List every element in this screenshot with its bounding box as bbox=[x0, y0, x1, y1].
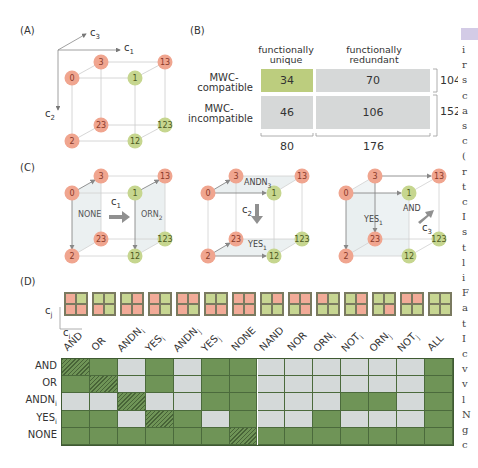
side-text-char: s bbox=[462, 74, 467, 85]
truth-icon-nor bbox=[288, 292, 312, 316]
side-text-char: l bbox=[462, 257, 465, 268]
matrix-cell bbox=[341, 359, 369, 376]
cube1-arrow-label: c1 bbox=[111, 196, 121, 210]
svg-text:12: 12 bbox=[404, 252, 414, 261]
svg-text:12: 12 bbox=[130, 137, 140, 146]
matrix-cell bbox=[341, 411, 369, 428]
side-text-char: l bbox=[462, 394, 465, 405]
truth-icon-all bbox=[428, 292, 452, 316]
matrix-cell bbox=[202, 428, 230, 445]
truth-icon-orn-i bbox=[316, 292, 340, 316]
matrix-cell bbox=[118, 376, 146, 393]
matrix-cell bbox=[230, 359, 258, 376]
matrix-cell bbox=[258, 393, 286, 410]
matrix-cell bbox=[425, 376, 453, 393]
svg-text:13: 13 bbox=[160, 172, 170, 181]
matrix-cell bbox=[285, 359, 313, 376]
svg-text:23: 23 bbox=[370, 235, 380, 244]
matrix-cell bbox=[230, 376, 258, 393]
table-brackets bbox=[255, 65, 455, 145]
axis-cj-label: cj bbox=[45, 305, 52, 319]
truth-icon-yes-j bbox=[204, 292, 228, 316]
side-text-char: ( bbox=[462, 150, 466, 161]
matrix-cell bbox=[90, 411, 118, 428]
svg-text:1: 1 bbox=[406, 189, 411, 198]
cube-transitions-c: 3 13 0 1 23 123 2 12 3 13 0 bbox=[0, 160, 460, 275]
matrix-cell bbox=[118, 428, 146, 445]
truth-icon-none bbox=[232, 292, 256, 316]
matrix-cell bbox=[174, 359, 202, 376]
cube3-arrow-label: c3 bbox=[422, 222, 432, 236]
cube3-left-label: YES1 bbox=[364, 215, 383, 226]
svg-text:3: 3 bbox=[233, 172, 238, 181]
matrix-cell bbox=[174, 393, 202, 410]
matrix-cell bbox=[118, 359, 146, 376]
column-label: NAND bbox=[257, 324, 286, 353]
side-text-char: a bbox=[462, 105, 468, 116]
cube2-arrow-label: c2 bbox=[242, 204, 252, 218]
svg-text:123: 123 bbox=[294, 235, 309, 244]
matrix-cell bbox=[62, 359, 90, 376]
column-label: AND bbox=[61, 330, 84, 353]
matrix-cell bbox=[62, 428, 90, 445]
side-text-char: r bbox=[462, 59, 467, 70]
side-text-char: c bbox=[462, 196, 468, 207]
side-text-char: c bbox=[462, 439, 468, 450]
matrix-cell bbox=[202, 359, 230, 376]
matrix-cell bbox=[62, 376, 90, 393]
column-label: ORNi bbox=[311, 329, 338, 356]
side-text-char: v bbox=[462, 378, 468, 389]
matrix-cell bbox=[313, 428, 341, 445]
matrix-cell bbox=[369, 376, 397, 393]
side-text-char: F bbox=[462, 287, 469, 298]
svg-text:123: 123 bbox=[157, 235, 172, 244]
column-label: ANDNj bbox=[171, 324, 203, 356]
matrix-cell bbox=[397, 393, 425, 410]
matrix-cell bbox=[174, 376, 202, 393]
matrix-cell bbox=[285, 376, 313, 393]
svg-text:3: 3 bbox=[98, 58, 103, 67]
col-total-unique: 80 bbox=[280, 140, 294, 153]
matrix-cell bbox=[146, 411, 174, 428]
matrix-cell bbox=[341, 393, 369, 410]
row-header-incompatible: MWC-incompatible bbox=[185, 104, 253, 124]
matrix-cell bbox=[202, 411, 230, 428]
svg-text:13: 13 bbox=[160, 58, 170, 67]
side-highlight bbox=[461, 28, 478, 40]
matrix-cell bbox=[425, 359, 453, 376]
matrix-cell bbox=[202, 376, 230, 393]
matrix-cell bbox=[341, 376, 369, 393]
matrix-cell bbox=[230, 411, 258, 428]
axis-c2-label: c2 bbox=[45, 108, 55, 122]
matrix-cell bbox=[425, 411, 453, 428]
truth-icon-or bbox=[92, 292, 116, 316]
matrix-cell bbox=[313, 411, 341, 428]
matrix-cell bbox=[258, 359, 286, 376]
axis-c3-label: c3 bbox=[90, 27, 100, 41]
matrix-cell bbox=[230, 393, 258, 410]
column-label: ANDNi bbox=[115, 324, 147, 356]
matrix-cell bbox=[397, 428, 425, 445]
side-text-char: t bbox=[462, 318, 466, 329]
side-text-char: r bbox=[462, 166, 467, 177]
side-text-char: t bbox=[462, 242, 466, 253]
matrix-cell bbox=[174, 411, 202, 428]
svg-text:2: 2 bbox=[69, 252, 74, 261]
side-text-char: a bbox=[462, 302, 468, 313]
svg-text:123: 123 bbox=[431, 235, 446, 244]
cropped-side-text: irscasc(rtcIstliFatIcvvlNgc bbox=[458, 0, 478, 468]
matrix-cell bbox=[90, 376, 118, 393]
matrix-cell bbox=[62, 411, 90, 428]
matrix-cell bbox=[425, 393, 453, 410]
truth-icon-orn-j bbox=[372, 292, 396, 316]
column-label: YESi bbox=[143, 331, 168, 356]
compatibility-matrix bbox=[61, 358, 454, 446]
svg-text:2: 2 bbox=[69, 137, 74, 146]
truth-icon-not-i bbox=[344, 292, 368, 316]
svg-text:0: 0 bbox=[343, 189, 348, 198]
row-header-compatible: MWC-compatible bbox=[195, 73, 253, 93]
panel-d-label: (D) bbox=[20, 276, 36, 287]
side-text-char: s bbox=[462, 120, 467, 131]
side-text-char: g bbox=[462, 424, 468, 435]
matrix-cell bbox=[230, 428, 258, 445]
